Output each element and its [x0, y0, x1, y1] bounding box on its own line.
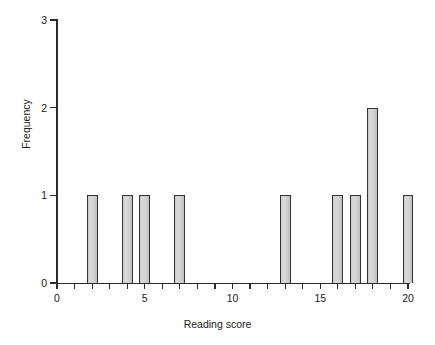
x-axis-tick [109, 284, 110, 289]
y-axis-tick [50, 195, 56, 196]
x-axis-tick [179, 284, 180, 289]
x-axis-tick [92, 284, 93, 289]
x-axis-tick [337, 284, 338, 289]
y-axis-title: Frequency [20, 99, 32, 149]
x-axis-tick-label: 5 [142, 292, 148, 304]
x-axis-tick [127, 284, 128, 289]
histogram-bar [403, 195, 414, 283]
x-axis-tick [390, 284, 391, 289]
x-axis-tick [285, 284, 286, 289]
histogram-bar [350, 195, 361, 283]
histogram-bar [87, 195, 98, 283]
frequency-histogram: 0123 05101520 Frequency Reading score [0, 0, 435, 345]
x-axis-tick [56, 284, 57, 289]
x-axis-tick [197, 284, 198, 289]
x-axis-tick-label: 0 [54, 292, 60, 304]
x-axis-tick [144, 284, 145, 289]
x-axis-tick [302, 284, 303, 289]
y-axis-tick-label: 0 [34, 277, 47, 289]
histogram-bar [139, 195, 150, 283]
y-axis-tick [50, 107, 56, 108]
y-axis-tick [50, 19, 56, 20]
histogram-bar [332, 195, 343, 283]
x-axis-tick [249, 284, 250, 289]
histogram-bar [280, 195, 291, 283]
x-axis-tick-label: 15 [314, 292, 326, 304]
y-axis-tick-label: 2 [34, 102, 47, 114]
x-axis-tick [232, 284, 233, 289]
x-axis-tick [214, 284, 215, 289]
x-axis-tick [162, 284, 163, 289]
x-axis-tick [74, 284, 75, 289]
x-axis-title: Reading score [0, 318, 435, 330]
x-axis-tick [407, 284, 408, 289]
x-axis-tick [267, 284, 268, 289]
x-axis-tick-label: 20 [402, 292, 414, 304]
y-axis-tick-label: 1 [34, 189, 47, 201]
y-axis-line [56, 19, 58, 284]
histogram-bar [122, 195, 133, 283]
x-axis-tick [372, 284, 373, 289]
x-axis-tick [355, 284, 356, 289]
y-axis-tick-label: 3 [34, 14, 47, 26]
x-axis-tick-label: 10 [227, 292, 239, 304]
x-axis-tick [320, 284, 321, 289]
histogram-bar [174, 195, 185, 283]
y-axis-tick [50, 282, 56, 283]
histogram-bar [367, 108, 378, 283]
